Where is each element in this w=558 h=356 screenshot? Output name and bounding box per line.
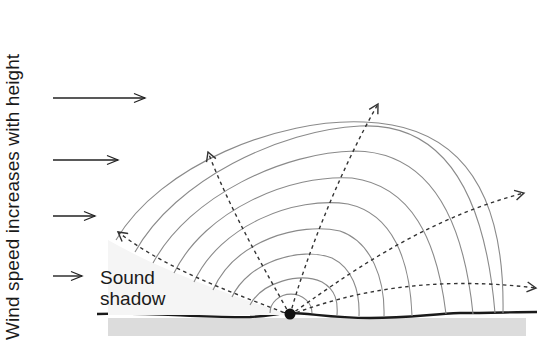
ground-fill	[108, 318, 526, 336]
diagram-canvas	[0, 0, 558, 356]
sound-shadow-label-line2: shadow	[100, 288, 166, 309]
sound-source-dot	[285, 309, 296, 320]
ray-right-upper	[290, 193, 524, 315]
wind-speed-label: Wind speed increases with height	[2, 54, 24, 340]
wind-arrows	[53, 98, 145, 276]
ray-up-left	[208, 152, 290, 315]
sound-shadow-label: Sound shadow	[100, 267, 166, 309]
ray-right-lower	[290, 283, 536, 315]
ground	[97, 312, 537, 336]
sound-propagation-diagram: Wind speed increases with height Sound s…	[0, 0, 558, 356]
sound-shadow-label-line1: Sound	[100, 267, 166, 288]
